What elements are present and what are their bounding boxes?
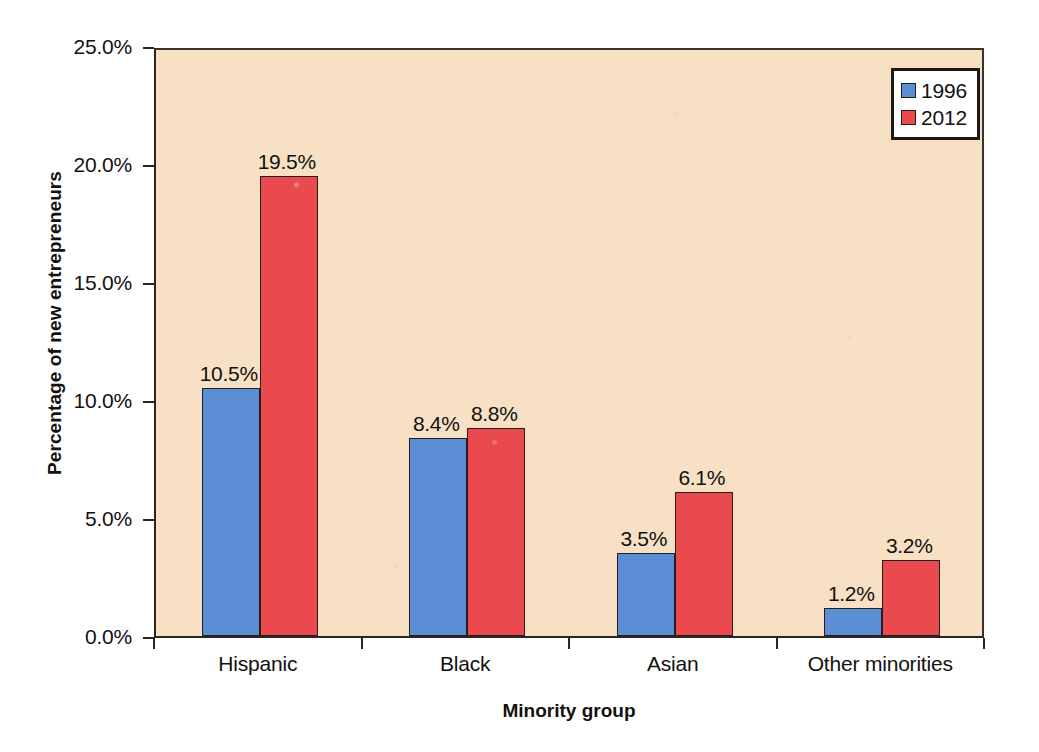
bar-value-label: 6.1% bbox=[660, 466, 744, 490]
legend-label-2012: 2012 bbox=[921, 107, 967, 128]
y-tick-label: 15.0% bbox=[10, 271, 132, 295]
legend-item-2012: 2012 bbox=[901, 104, 967, 131]
y-tick-mark bbox=[143, 401, 154, 403]
bar-value-label: 3.2% bbox=[867, 534, 951, 558]
x-tick-mark bbox=[153, 638, 155, 649]
y-tick-label: 10.0% bbox=[10, 389, 132, 413]
bar-value-label: 8.8% bbox=[452, 402, 536, 426]
bar-1996-other-minorities bbox=[824, 608, 882, 636]
x-tick-mark bbox=[776, 638, 778, 649]
y-tick-label: 25.0% bbox=[10, 35, 132, 59]
bar-chart: Percentage of new entrepreneurs 25.0%20.… bbox=[0, 0, 1039, 752]
y-tick-mark bbox=[143, 519, 154, 521]
x-tick-mark bbox=[568, 638, 570, 649]
chart-legend: 1996 2012 bbox=[891, 68, 980, 140]
bar-1996-asian bbox=[617, 553, 675, 636]
legend-swatch-2012 bbox=[901, 110, 916, 125]
bar-1996-hispanic bbox=[202, 388, 260, 636]
bar-value-label: 3.5% bbox=[602, 527, 686, 551]
plot-area bbox=[154, 48, 984, 638]
x-tick-label: Other minorities bbox=[777, 652, 985, 676]
y-tick-label: 5.0% bbox=[10, 507, 132, 531]
bar-2012-black bbox=[467, 428, 525, 636]
bar-1996-black bbox=[409, 438, 467, 636]
legend-item-1996: 1996 bbox=[901, 77, 967, 104]
x-tick-label: Asian bbox=[569, 652, 777, 676]
bar-2012-hispanic bbox=[260, 176, 318, 636]
bar-value-label: 19.5% bbox=[245, 150, 329, 174]
y-tick-mark bbox=[143, 283, 154, 285]
legend-label-1996: 1996 bbox=[921, 80, 967, 101]
x-tick-mark bbox=[983, 638, 985, 649]
x-tick-mark bbox=[361, 638, 363, 649]
legend-swatch-1996 bbox=[901, 83, 916, 98]
y-tick-label: 20.0% bbox=[10, 153, 132, 177]
x-tick-label: Black bbox=[362, 652, 570, 676]
bar-value-label: 1.2% bbox=[809, 582, 893, 606]
y-tick-mark bbox=[143, 165, 154, 167]
y-tick-mark bbox=[143, 47, 154, 49]
bar-2012-asian bbox=[675, 492, 733, 636]
bar-value-label: 10.5% bbox=[187, 362, 271, 386]
x-axis-title: Minority group bbox=[154, 700, 984, 722]
x-tick-label: Hispanic bbox=[154, 652, 362, 676]
y-tick-label: 0.0% bbox=[10, 625, 132, 649]
